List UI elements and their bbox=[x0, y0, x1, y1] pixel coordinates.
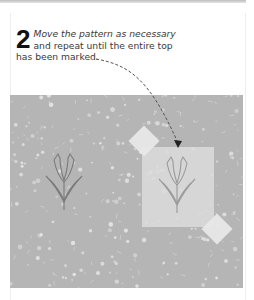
fabric-flower-dot bbox=[230, 95, 233, 97]
fabric-flower-dot bbox=[32, 181, 36, 185]
fabric-flower-dot bbox=[165, 124, 168, 127]
fabric-flower-dot bbox=[36, 256, 40, 260]
fabric-flower-dot bbox=[135, 284, 139, 288]
fabric-leaf-mark bbox=[46, 211, 48, 212]
fabric-leaf-mark bbox=[27, 250, 29, 253]
pattern-sheet bbox=[142, 147, 214, 227]
fabric-leaf-mark bbox=[62, 163, 63, 166]
fabric-flower-dot bbox=[14, 123, 18, 127]
fabric-flower-dot bbox=[108, 228, 112, 232]
fabric-flower-dot bbox=[37, 246, 41, 250]
fabric-flower-dot bbox=[231, 156, 234, 159]
fabric-leaf-mark bbox=[240, 158, 243, 159]
fabric-flower-dot bbox=[201, 283, 205, 287]
fabric-flower-dot bbox=[21, 165, 24, 168]
fabric-flower-dot bbox=[78, 287, 80, 288]
fabric-flower-dot bbox=[233, 211, 236, 214]
fabric-flower-dot bbox=[237, 284, 239, 286]
fabric-flower-dot bbox=[204, 278, 207, 281]
fabric-flower-dot bbox=[112, 200, 114, 202]
fabric-flower-dot bbox=[93, 142, 95, 144]
fabric-flower-dot bbox=[138, 98, 141, 101]
fabric-flower-dot bbox=[222, 212, 226, 216]
fabric-flower-dot bbox=[137, 193, 141, 197]
fabric-flower-dot bbox=[167, 273, 169, 275]
fabric-leaf-mark bbox=[27, 138, 29, 141]
fabric-flower-dot bbox=[27, 264, 29, 266]
fabric-leaf-mark bbox=[237, 161, 238, 166]
fabric-leaf-mark bbox=[215, 120, 217, 122]
fabric-leaf-mark bbox=[181, 275, 185, 276]
fabric-flower-dot bbox=[155, 121, 160, 126]
fabric-flower-dot bbox=[97, 111, 100, 114]
fabric-flower-dot bbox=[188, 235, 192, 239]
fabric-leaf-mark bbox=[225, 96, 228, 97]
step-text-line-3: has been marked. bbox=[16, 51, 99, 62]
fabric-flower-dot bbox=[36, 178, 41, 183]
fabric-flower-dot bbox=[154, 113, 156, 115]
fabric-leaf-mark bbox=[105, 235, 107, 237]
fabric-flower-dot bbox=[113, 260, 116, 263]
fabric-flower-dot bbox=[203, 237, 207, 241]
fabric-flower-dot bbox=[127, 173, 131, 177]
fabric-flower-dot bbox=[52, 221, 54, 223]
fabric-flower-dot bbox=[217, 204, 219, 206]
fabric-leaf-mark bbox=[121, 283, 123, 284]
fabric-flower-dot bbox=[62, 276, 65, 279]
fabric-flower-dot bbox=[28, 122, 30, 124]
fabric-flower-dot bbox=[115, 279, 119, 283]
step-instruction: 2 Move the pattern as necessary and repe… bbox=[16, 28, 226, 63]
fabric-flower-dot bbox=[137, 158, 139, 160]
fabric-flower-dot bbox=[48, 247, 51, 250]
fabric-leaf-mark bbox=[41, 125, 42, 130]
fabric-leaf-mark bbox=[42, 166, 43, 169]
fabric-flower-dot bbox=[68, 186, 70, 188]
fabric-leaf-mark bbox=[74, 128, 76, 130]
fabric-leaf-mark bbox=[117, 139, 118, 142]
fabric-flower-dot bbox=[71, 279, 73, 281]
fabric-flower-dot bbox=[71, 241, 75, 245]
fabric-flower-dot bbox=[39, 96, 43, 100]
fabric-flower-dot bbox=[99, 142, 102, 145]
fabric-flower-dot bbox=[13, 153, 17, 157]
fabric-flower-dot bbox=[78, 167, 82, 171]
fabric-leaf-mark bbox=[201, 141, 203, 142]
floral-fabric bbox=[10, 95, 243, 288]
fabric-flower-dot bbox=[106, 199, 110, 203]
fabric-leaf-mark bbox=[53, 272, 54, 275]
fabric-leaf-mark bbox=[196, 120, 198, 123]
fabric-flower-dot bbox=[67, 187, 69, 189]
fabric-flower-dot bbox=[81, 251, 84, 254]
fabric-flower-dot bbox=[142, 238, 147, 243]
fabric-leaf-mark bbox=[104, 95, 108, 97]
fabric-leaf-mark bbox=[226, 170, 227, 173]
fabric-flower-dot bbox=[224, 259, 228, 263]
fabric-flower-dot bbox=[132, 175, 134, 177]
fabric-leaf-mark bbox=[12, 159, 13, 161]
fabric-leaf-mark bbox=[237, 195, 239, 197]
fabric-flower-dot bbox=[154, 110, 157, 113]
fabric-flower-dot bbox=[165, 95, 167, 97]
fabric-flower-dot bbox=[102, 149, 104, 151]
fabric-flower-dot bbox=[86, 99, 88, 101]
fabric-flower-dot bbox=[49, 102, 54, 107]
fabric-flower-dot bbox=[15, 202, 19, 206]
fabric-leaf-mark bbox=[41, 143, 42, 145]
fabric-flower-dot bbox=[139, 204, 141, 206]
fabric-flower-dot bbox=[202, 128, 205, 131]
fabric-leaf-mark bbox=[127, 119, 129, 121]
fabric-leaf-mark bbox=[117, 251, 121, 253]
fabric-leaf-mark bbox=[50, 260, 54, 261]
fabric-leaf-mark bbox=[173, 253, 175, 255]
fabric-flower-dot bbox=[162, 263, 164, 265]
fabric-flower-dot bbox=[191, 228, 193, 230]
fabric-flower-dot bbox=[24, 162, 26, 164]
fabric-flower-dot bbox=[234, 266, 236, 268]
fabric-flower-dot bbox=[10, 188, 12, 191]
fabric-leaf-mark bbox=[222, 240, 224, 242]
fabric-leaf-mark bbox=[221, 250, 224, 252]
fabric-flower-dot bbox=[235, 109, 239, 113]
fabric-flower-dot bbox=[233, 247, 238, 252]
fabric-flower-dot bbox=[40, 233, 43, 236]
fabric-leaf-mark bbox=[231, 241, 233, 243]
